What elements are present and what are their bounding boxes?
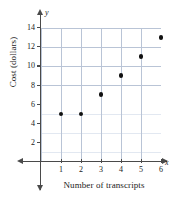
y-tick-label: 14 [15,23,35,32]
x-tick-label: 1 [54,165,68,174]
y-tick-label: 4 [15,119,35,128]
x-axis-label: Number of transcripts [41,180,167,190]
y-tick-mark [37,123,41,124]
x-tick-label: 2 [74,165,88,174]
data-point [159,35,164,40]
x-axis-line [22,161,167,162]
y-tick-label: 12 [15,42,35,51]
x-tick-mark [121,159,122,163]
y-axis-line [40,14,41,190]
x-tick-mark [141,159,142,163]
x-tick-label: 4 [114,165,128,174]
x-tick-mark [61,159,62,163]
y-tick-label: 2 [15,138,35,147]
x-tick-label: 6 [154,165,168,174]
y-tick-label: 6 [15,100,35,109]
x-tick-mark [161,159,162,163]
y-tick-mark [37,85,41,86]
x-tick-label: 3 [94,165,108,174]
y-axis-up-arrow-icon [37,9,43,15]
scatter-plot-figure: y x Cost (dollars) Number of transcripts… [0,0,176,198]
y-tick-mark [37,142,41,143]
y-tick-label: 10 [15,61,35,70]
x-axis-left-arrow-icon [17,158,23,164]
x-tick-label: 5 [134,165,148,174]
y-tick-mark [37,104,41,105]
y-tick-mark [37,46,41,47]
x-tick-mark [81,159,82,163]
data-point [119,73,124,78]
data-point [139,54,144,59]
y-tick-mark [37,27,41,28]
y-tick-label: 8 [15,81,35,90]
y-tick-mark [37,65,41,66]
x-tick-mark [101,159,102,163]
y-axis-letter: y [45,8,49,17]
